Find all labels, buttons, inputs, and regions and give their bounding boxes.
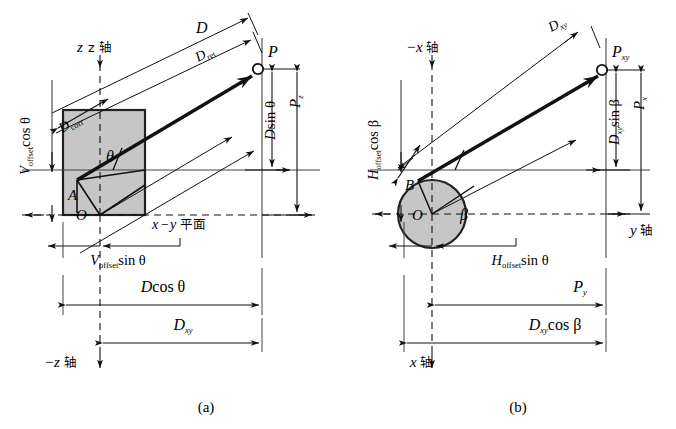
hoffset-cos-sub: offset [373, 150, 383, 170]
svg-text:−: − [161, 217, 169, 232]
label-theta: θ [106, 148, 114, 165]
pxy-sub: xy [621, 52, 630, 62]
py-main: P [572, 278, 583, 295]
hoffset-sin-tail: sin θ [521, 252, 549, 268]
pz-sub: z [295, 95, 305, 100]
label-axis-x-negative-cjk: 轴 [426, 40, 439, 55]
dsin-D: D [262, 129, 278, 141]
dxycos-tail: cos β [548, 316, 581, 334]
dxysin-sub: xy [614, 127, 624, 136]
point-Pxy-marker [597, 65, 607, 75]
pxy-main: P [611, 43, 622, 60]
svg-text:Dxysin β: Dxysin β [606, 99, 624, 146]
label-axis-z-positive-cjk: z 轴 [88, 40, 112, 55]
point-P-marker [253, 64, 263, 74]
label-axis-z-positive: z [76, 39, 83, 55]
label-axis-x-positive-cjk: 轴 [420, 355, 433, 370]
svg-text:Hoffsetcos β: Hoffsetcos β [365, 120, 383, 181]
label-dxysin-beta: Dxysin β [606, 99, 624, 146]
py-sub: y [582, 287, 587, 297]
px-main: P [631, 101, 647, 111]
figure-canvas: z z 轴 −z 轴 Voffsetcos θ D Dret Dcorr θ A… [0, 0, 676, 429]
panel-a-caption: (a) [198, 399, 215, 416]
svg-text:y: y [628, 222, 637, 238]
label-axis-z-negative-sign: −z [44, 354, 60, 370]
label-axis-z-negative-cjk: 轴 [64, 355, 77, 370]
svg-text:Dsin θ: Dsin θ [262, 101, 278, 141]
dxycos-main: D [528, 316, 541, 333]
label-point-O: O [76, 207, 87, 223]
dcos-D: D [140, 278, 153, 295]
label-dsin-theta: Dsin θ [262, 101, 278, 141]
voffset-sin-sub: offset [99, 260, 119, 270]
label-axis-x-positive: x 轴 [409, 354, 433, 370]
svg-text:x: x [151, 217, 159, 232]
svg-text:y: y [168, 217, 177, 232]
voffset-cos-tail: cos θ [17, 117, 33, 147]
dxy-sub: xy [184, 325, 193, 335]
dxysin-tail: sin β [606, 99, 622, 127]
label-xy-plane-cjk: 平面 [180, 217, 206, 232]
label-voffset-cos: Voffsetcos θ [17, 117, 35, 175]
label-point-A: A [67, 187, 78, 203]
voffset-cos-sub: offset [25, 146, 35, 166]
label-voffset-sin: Voffsetsin θ [90, 252, 146, 270]
label-dcos-theta: Dcos θ [140, 278, 186, 295]
hoffset-sin-sub: offset [502, 260, 522, 270]
svg-text:−x: −x [406, 39, 423, 55]
label-dxycos-beta: Dxycos β [528, 316, 582, 335]
dsin-tail: sin θ [262, 101, 278, 129]
label-axis-y-cjk: 轴 [640, 223, 653, 238]
diagram-svg: z z 轴 −z 轴 Voffsetcos θ D Dret Dcorr θ A… [0, 0, 676, 429]
label-hoffset-cos: Hoffsetcos β [365, 120, 383, 181]
label-point-O-b: O [412, 207, 423, 223]
panel-b-caption: (b) [509, 399, 527, 416]
label-axis-x-negative: −x 轴 [406, 39, 439, 55]
dxycos-sub: xy [539, 325, 548, 335]
px-sub: x [639, 97, 649, 102]
pz-main: P [287, 99, 303, 109]
dcos-tail: cos θ [152, 278, 185, 295]
dxysin-main: D [606, 134, 622, 146]
svg-text:x: x [409, 354, 417, 370]
voffset-sin-tail: sin θ [118, 252, 146, 268]
svg-text:Voffsetcos θ: Voffsetcos θ [17, 117, 35, 175]
hoffset-cos-tail: cos β [365, 120, 381, 150]
label-point-B: B [405, 177, 414, 193]
label-D: D [195, 19, 208, 36]
label-axis-y: y 轴 [628, 222, 653, 238]
label-beta: β [459, 206, 468, 224]
dxy-main: D [172, 316, 185, 333]
label-point-P: P [267, 43, 278, 60]
